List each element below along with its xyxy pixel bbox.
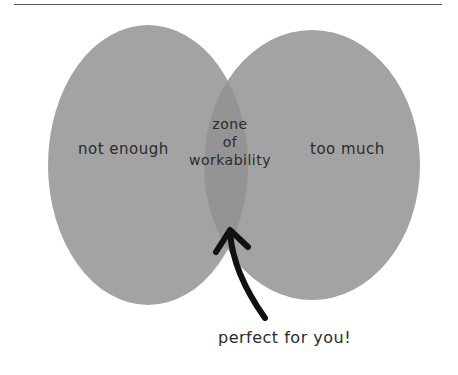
of-line: of — [180, 133, 280, 151]
venn-diagram — [0, 0, 458, 375]
zone-line: zone — [180, 115, 280, 133]
too-much-label: too much — [310, 140, 385, 158]
zone-of-workability-label: zone of workability — [180, 115, 280, 169]
not-enough-label: not enough — [78, 140, 169, 158]
workability-line: workability — [180, 151, 280, 169]
perfect-for-you-label: perfect for you! — [218, 328, 351, 347]
